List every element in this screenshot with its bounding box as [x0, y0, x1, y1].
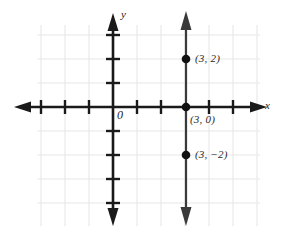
vertical-line-arrow-down	[181, 207, 192, 226]
coordinate-plane-figure: (3, 2) (3, 0) (3, −2) y x 0	[0, 0, 281, 237]
data-point-3-0	[182, 103, 191, 112]
graph-canvas	[0, 0, 281, 237]
data-point-3-minus-2	[182, 151, 191, 160]
origin-label: 0	[117, 108, 123, 123]
point-label-3-minus-2: (3, −2)	[195, 148, 228, 160]
y-axis-label: y	[121, 8, 126, 20]
y-axis-arrow-down	[108, 208, 119, 226]
x-axis-label: x	[265, 99, 270, 111]
y-axis-arrow-up	[108, 13, 119, 31]
x-axis	[14, 100, 267, 114]
grid-lines	[37, 25, 260, 226]
x-axis-arrow-left	[14, 102, 31, 113]
point-label-3-0: (3, 0)	[190, 113, 215, 125]
point-label-3-2: (3, 2)	[195, 52, 220, 64]
data-point-3-2	[182, 55, 191, 64]
vertical-line-arrow-up	[181, 11, 192, 30]
